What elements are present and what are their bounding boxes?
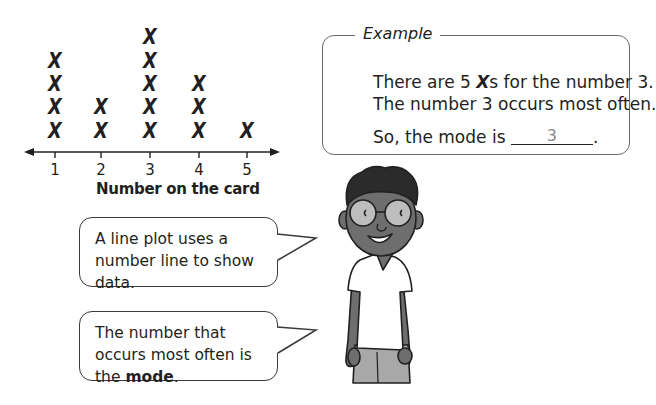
speech-bubble-line-plot: A line plot uses a number line to show d… <box>79 217 278 287</box>
x-marker: X <box>141 73 160 95</box>
tick-label-2: 2 <box>91 161 111 179</box>
mode-answer-blank: 3 <box>511 128 593 145</box>
x-marker-glyph: X <box>476 72 489 92</box>
example-line-2: The number 3 occurs most often. <box>373 93 656 115</box>
x-marker: X <box>46 120 65 142</box>
mode-term: mode <box>125 368 173 386</box>
x-axis-title: Number on the card <box>96 180 260 198</box>
example-text: There are 5 <box>373 72 476 92</box>
x-marker: X <box>46 73 65 95</box>
example-line-3: So, the mode is 3. <box>373 126 598 148</box>
x-marker: X <box>190 120 209 142</box>
example-text: . <box>593 127 598 147</box>
x-marker: X <box>141 120 160 142</box>
bubble-text: A line plot uses a number line to show d… <box>95 230 254 292</box>
x-marker: X <box>141 50 160 72</box>
example-label: Example <box>355 24 440 44</box>
x-marker: X <box>141 96 160 118</box>
tick-label-1: 1 <box>45 161 65 179</box>
x-marker: X <box>141 26 160 48</box>
x-marker: X <box>92 120 111 142</box>
right-arrow-icon <box>270 148 280 156</box>
example-text: So, the mode is <box>373 127 511 147</box>
bubble-text: . <box>174 368 179 386</box>
x-marker: X <box>190 96 209 118</box>
x-marker: X <box>46 96 65 118</box>
tick-label-5: 5 <box>237 161 257 179</box>
x-marker: X <box>238 120 257 142</box>
x-marker: X <box>92 96 111 118</box>
example-line-1: There are 5 Xs for the number 3. <box>373 71 654 93</box>
example-text: s for the number 3. <box>489 72 653 92</box>
tick-label-3: 3 <box>140 161 160 179</box>
left-arrow-icon <box>24 148 34 156</box>
tick-label-4: 4 <box>189 161 209 179</box>
x-marker: X <box>46 50 65 72</box>
speech-bubble-mode: The number that occurs most often is the… <box>79 311 278 381</box>
x-marker: X <box>190 73 209 95</box>
